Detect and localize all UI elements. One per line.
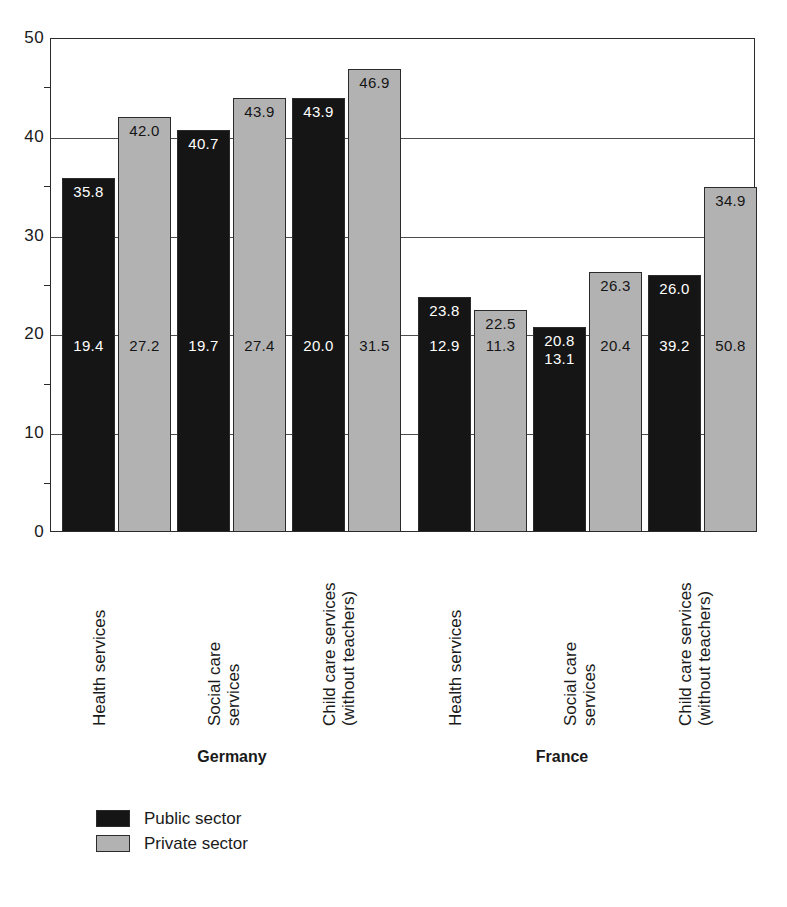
bar-inner-label: 11.3 [475,337,526,354]
bar-inner-label: 13.1 [534,350,585,367]
x-axis-category-label: Social careservices [561,536,599,726]
bar-private[interactable]: 34.950.8 [704,187,757,532]
category-label-line1: Health services [446,610,465,726]
chart-legend: Public sectorPrivate sector [96,806,396,856]
bar-private[interactable]: 42.027.2 [118,117,171,532]
bar-inner-label: 50.8 [705,337,756,354]
bar-inner-label: 27.4 [234,337,285,354]
x-axis-category-label: Health services [446,536,465,726]
bar-public[interactable]: 40.719.7 [177,130,230,532]
bar-value-label: 42.0 [119,122,170,139]
legend-color-swatch [96,810,130,827]
bar-value-label: 20.8 [534,332,585,349]
bar-inner-label: 19.4 [63,337,114,354]
category-label-line2: services [580,536,599,726]
x-axis-category-label: Health services [90,536,109,726]
category-label-line1: Health services [90,610,109,726]
category-label-line1: Social care [205,642,224,726]
bar-inner-label: 19.7 [178,337,229,354]
bar-inner-label: 27.2 [119,337,170,354]
bar-value-label: 43.9 [293,103,344,120]
bar-inner-label: 20.4 [590,337,641,354]
x-axis-category-label: Child care services(without teachers) [320,536,358,726]
legend-item[interactable]: Public sector [96,806,396,831]
bar-public[interactable]: 20.813.1 [533,327,586,533]
bar-private[interactable]: 46.931.5 [348,69,401,532]
x-axis-group-label: Germany [197,748,266,766]
bar-value-label: 26.0 [649,280,700,297]
chart-title-strip [0,0,787,14]
category-label-line1: Child care services [320,582,339,726]
category-label-line2: (without teachers) [339,536,358,726]
category-label-line1: Social care [561,642,580,726]
bar-value-label: 43.9 [234,103,285,120]
legend-label: Private sector [144,834,248,854]
bar-value-label: 35.8 [63,183,114,200]
legend-item[interactable]: Private sector [96,831,396,856]
bar-value-label: 46.9 [349,74,400,91]
category-label-line1: Child care services [676,582,695,726]
x-axis-category-labels: Health servicesSocial careservicesChild … [50,536,755,726]
bar-private[interactable]: 26.320.4 [589,272,642,532]
bar-inner-label: 39.2 [649,337,700,354]
bar-private[interactable]: 43.927.4 [233,98,286,532]
bar-value-label: 26.3 [590,277,641,294]
category-label-line2: (without teachers) [695,536,714,726]
bar-value-label: 40.7 [178,135,229,152]
bar-public[interactable]: 26.039.2 [648,275,701,532]
bar-value-label: 23.8 [419,302,470,319]
category-label-line2: services [224,536,243,726]
bar-inner-label: 31.5 [349,337,400,354]
bar-public[interactable]: 23.812.9 [418,297,471,532]
bar-value-label: 34.9 [705,192,756,209]
x-axis-category-label: Social careservices [205,536,243,726]
x-axis-group-labels: GermanyFrance [50,748,755,774]
bar-value-label: 22.5 [475,315,526,332]
legend-color-swatch [96,835,130,852]
bar-public[interactable]: 43.920.0 [292,98,345,532]
legend-label: Public sector [144,809,241,829]
bar-public[interactable]: 35.819.4 [62,178,115,532]
bars-layer: 35.819.442.027.240.719.743.927.443.920.0… [50,38,755,532]
bar-inner-label: 20.0 [293,337,344,354]
bar-inner-label: 12.9 [419,337,470,354]
bar-private[interactable]: 22.511.3 [474,310,527,532]
y-axis-minor-ticks [0,38,52,532]
x-axis-category-label: Child care services(without teachers) [676,536,714,726]
x-axis-group-label: France [536,748,588,766]
